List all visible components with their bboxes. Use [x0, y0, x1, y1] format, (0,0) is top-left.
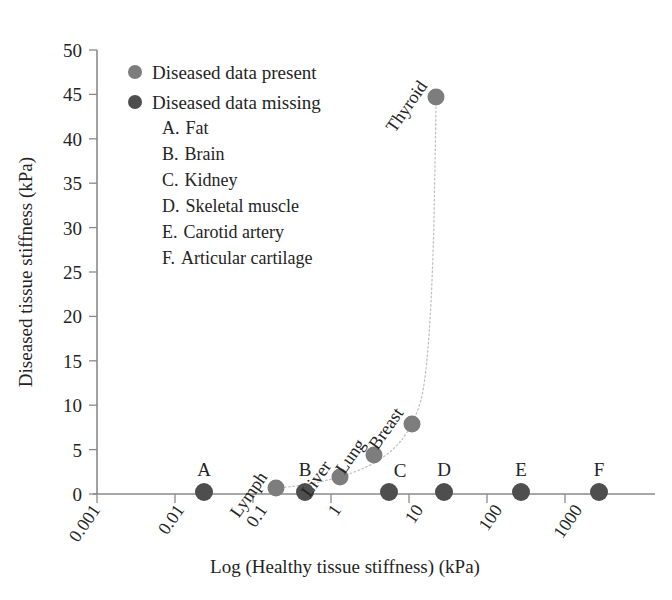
data-point-breast[interactable] — [404, 416, 421, 433]
x-tick-label: 0.01 — [154, 501, 188, 538]
data-point-kidney[interactable] — [380, 483, 398, 501]
x-tick-label: 0.001 — [65, 501, 105, 546]
y-tick-label: 30 — [63, 218, 82, 239]
y-tick-label: 5 — [73, 440, 83, 461]
legend-key-d: D.Skeletal muscle — [162, 196, 299, 216]
data-point-fat[interactable] — [195, 483, 213, 501]
data-point-articular-cartilage[interactable] — [590, 483, 608, 501]
legend-marker-present — [128, 65, 142, 79]
legend-marker-missing — [128, 95, 142, 109]
y-tick-label: 35 — [63, 173, 82, 194]
point-letter-a: A — [197, 459, 211, 480]
legend-key-a: A.Fat — [162, 118, 209, 138]
x-tick-label: 1 — [324, 501, 346, 520]
y-tick-label: 25 — [63, 262, 82, 283]
x-axis-title: Log (Healthy tissue stiffness) (kPa) — [210, 556, 480, 578]
y-tick-label: 20 — [63, 306, 82, 327]
y-axis-ticks — [89, 50, 97, 494]
annotation-thyroid: Thyroid — [382, 77, 432, 136]
series-diseased-data-present — [268, 89, 445, 497]
x-axis-ticks — [97, 494, 565, 503]
y-tick-label: 50 — [63, 40, 82, 61]
x-tick-label: 100 — [474, 501, 506, 535]
point-letter-e: E — [515, 459, 527, 480]
annotation-breast: Breast — [365, 404, 408, 453]
y-axis-tick-labels: 50 45 40 35 30 25 20 15 10 5 0 — [63, 40, 82, 505]
tissue-annotations: Lymph Liver Lung Breast Thyroid — [226, 77, 432, 521]
y-tick-label: 40 — [63, 129, 82, 150]
legend-label-missing: Diseased data missing — [152, 92, 321, 113]
y-tick-label: 0 — [73, 484, 83, 505]
y-tick-label: 10 — [63, 395, 82, 416]
point-letter-f: F — [594, 459, 605, 480]
y-tick-label: 45 — [63, 84, 82, 105]
point-letter-c: C — [394, 460, 407, 481]
point-letter-d: D — [437, 459, 451, 480]
legend-key-f: F.Articular cartilage — [162, 248, 313, 268]
data-point-skeletal-muscle[interactable] — [435, 483, 453, 501]
data-point-thyroid[interactable] — [428, 89, 445, 106]
chart-figure: 50 45 40 35 30 25 20 15 10 5 0 0.001 0.0… — [0, 0, 672, 600]
y-tick-label: 15 — [63, 351, 82, 372]
legend-key-e: E.Carotid artery — [162, 222, 284, 242]
legend-key-list: A.Fat B.Brain C.Kidney D.Skeletal muscle… — [162, 118, 313, 268]
x-tick-label: 1000 — [549, 501, 586, 542]
data-point-lymph[interactable] — [268, 480, 285, 497]
x-tick-label: 10 — [401, 501, 428, 527]
legend-label-present: Diseased data present — [152, 62, 317, 83]
data-point-carotid-artery[interactable] — [512, 483, 530, 501]
scatter-plot: 50 45 40 35 30 25 20 15 10 5 0 0.001 0.0… — [0, 0, 672, 600]
legend: Diseased data present Diseased data miss… — [128, 62, 321, 268]
y-axis-title: Diseased tissue stiffness (kPa) — [15, 157, 37, 387]
legend-key-c: C.Kidney — [162, 170, 238, 190]
x-axis-tick-labels: 0.001 0.01 0.1 1 10 100 1000 — [65, 501, 587, 546]
legend-key-b: B.Brain — [162, 144, 225, 164]
